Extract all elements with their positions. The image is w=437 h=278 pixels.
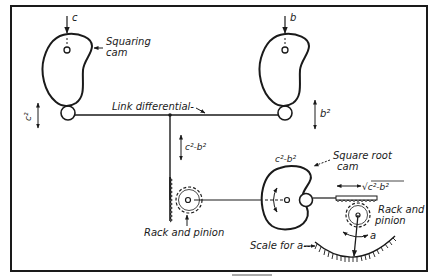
- indicator-needle: [354, 215, 358, 256]
- squaring-cam-b: b b²: [260, 12, 331, 129]
- link-differential: Link differential- c²-b²: [75, 101, 278, 200]
- squaring-cam-label-1: Squaring: [106, 36, 151, 47]
- output-label-a: a: [370, 230, 376, 241]
- rack-and-pinion-right: √c²-b² Rack and pinion a Scale for a--: [250, 181, 425, 262]
- input-label-c: c: [72, 12, 78, 23]
- rack-pinion-left-label: Rack and pinion: [144, 227, 224, 238]
- cam-outline: [260, 34, 310, 106]
- cam-pivot: [282, 47, 288, 53]
- rack-bar: [336, 196, 377, 200]
- rack-pinion-right-label-2: pinion: [374, 215, 406, 226]
- sqrt-cam-pivot: [285, 198, 290, 203]
- sqrt-output-label: √c²-b²: [362, 182, 389, 192]
- mechanism-diagram: c Squaring cam c² b b² Link differential…: [0, 0, 437, 278]
- square-root-cam-label-1: Square root: [333, 150, 393, 161]
- sqrt-cam-pointer: [314, 160, 330, 166]
- square-root-cam-label-2: cam: [337, 161, 359, 172]
- follower-roller: [61, 106, 75, 120]
- diff-label: c²-b²: [185, 142, 207, 152]
- squaring-cam-label-2: cam: [106, 47, 128, 58]
- rack-pinion-right-label-1: Rack and: [378, 204, 425, 215]
- cam-pivot: [64, 47, 70, 53]
- link-differential-label: Link differential-: [112, 101, 194, 112]
- cam-outline: [43, 34, 93, 106]
- scale-for-a-label: Scale for a--: [250, 240, 311, 251]
- input-label-b: b: [290, 12, 296, 23]
- b-squared-label: b²: [320, 108, 330, 119]
- sqrt-cam-input-label: c²-b²: [275, 154, 297, 164]
- rack-and-pinion-left: Rack and pinion: [144, 177, 262, 238]
- sqrt-cam-roller: [300, 194, 313, 207]
- follower-roller: [278, 106, 292, 120]
- pinion-hub: [186, 198, 191, 203]
- c-squared-label: c²: [23, 112, 33, 121]
- link-differential-pointer: [196, 108, 205, 113]
